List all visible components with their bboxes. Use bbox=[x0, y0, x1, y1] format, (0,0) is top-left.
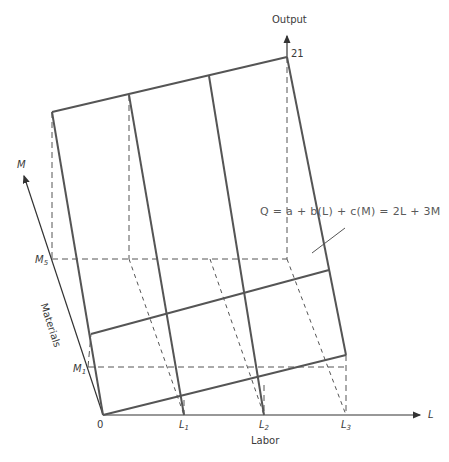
equation-leader-line bbox=[312, 228, 345, 253]
surface-bottom-edge bbox=[103, 355, 346, 415]
m5-tick-label: M5 bbox=[35, 255, 48, 267]
labor-axis-label: Labor bbox=[251, 436, 279, 446]
dashed-projections bbox=[52, 57, 346, 415]
surface-grid bbox=[52, 57, 346, 415]
surface-middle-line bbox=[91, 270, 329, 334]
output-axis-label: Output bbox=[272, 15, 307, 25]
materials-axis-letter: M bbox=[17, 160, 26, 170]
materials-axis bbox=[24, 176, 103, 415]
production-function-equation: Q = a + b(L) + c(M) = 2L + 3M bbox=[260, 206, 441, 217]
origin-label: 0 bbox=[97, 420, 103, 430]
surface-line-l1 bbox=[129, 95, 184, 415]
surface-line-l2 bbox=[209, 76, 264, 415]
output-max-label: 21 bbox=[291, 49, 304, 59]
surface-top-edge bbox=[52, 57, 287, 112]
production-surface-diagram bbox=[0, 0, 449, 462]
l2-tick-label: L2 bbox=[259, 420, 269, 432]
l3-tick-label: L3 bbox=[341, 420, 351, 432]
l1-tick-label: L1 bbox=[179, 420, 189, 432]
axes bbox=[24, 36, 420, 415]
labor-axis-letter: L bbox=[428, 410, 434, 420]
m1-tick-label: M1 bbox=[73, 364, 86, 376]
